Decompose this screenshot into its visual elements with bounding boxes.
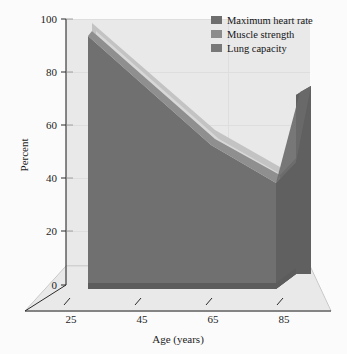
legend-label-muscle-strength: Muscle strength (227, 29, 295, 40)
x-tick-label-45: 45 (137, 313, 149, 325)
y-tick-label-80: 80 (46, 66, 58, 78)
area-chart-3d: 100 80 60 40 20 0 Percent 25 45 65 85 Ag… (0, 0, 347, 354)
y-tick-label-40: 40 (46, 172, 58, 184)
x-tick-label-25: 25 (66, 313, 78, 325)
y-tick-label-60: 60 (46, 119, 58, 131)
legend-swatch-maximum-heart-rate (211, 16, 222, 24)
x-tick-label-85: 85 (279, 313, 291, 325)
y-axis-title: Percent (18, 139, 30, 172)
y-tick-label-0: 0 (52, 279, 58, 291)
legend-swatch-muscle-strength (211, 30, 222, 38)
x-tick-label-65: 65 (208, 313, 220, 325)
legend-label-maximum-heart-rate: Maximum heart rate (227, 15, 313, 26)
chart-figure: 100 80 60 40 20 0 Percent 25 45 65 85 Ag… (0, 0, 347, 354)
x-axis-title: Age (years) (152, 333, 204, 346)
y-tick-label-20: 20 (46, 225, 58, 237)
legend-label-lung-capacity: Lung capacity (227, 43, 288, 54)
legend-swatch-lung-capacity (211, 44, 222, 52)
y-tick-label-100: 100 (41, 13, 58, 25)
